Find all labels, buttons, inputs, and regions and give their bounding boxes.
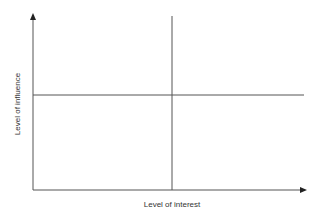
quadrant-diagram (0, 0, 323, 217)
x-axis-label: Level of interest (144, 200, 200, 209)
x-axis-arrow-icon (300, 187, 307, 193)
y-axis-arrow-icon (30, 13, 36, 20)
y-axis-label: Level of influence (13, 73, 22, 135)
